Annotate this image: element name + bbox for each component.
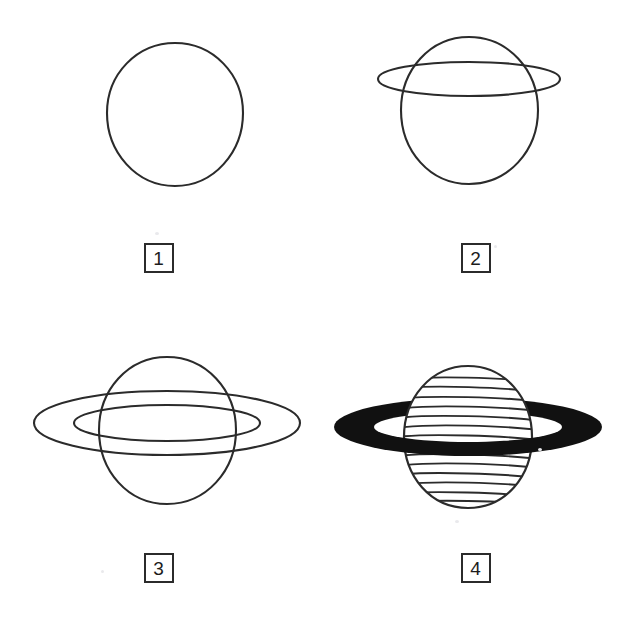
step-label-number: 3	[153, 559, 164, 578]
sphere-outline	[99, 357, 236, 504]
step-label-box-1: 1	[144, 243, 174, 273]
sphere-outline	[107, 43, 243, 186]
step-label-box-2: 2	[461, 243, 491, 273]
drawing-tutorial-sheet: 1 2 3	[0, 0, 634, 620]
step-label-box-3: 3	[144, 553, 174, 583]
step-panel-2: 2	[317, 0, 634, 310]
saturn-step-3-figure	[0, 310, 317, 550]
saturn-step-4-figure	[317, 310, 634, 550]
sphere-outline	[401, 37, 538, 184]
step-panel-3: 3	[0, 310, 317, 620]
step-panel-4: 4	[317, 310, 634, 620]
step-label-number: 4	[470, 559, 481, 578]
step-label-box-4: 4	[461, 553, 491, 583]
ring-ellipse-inner	[74, 405, 260, 441]
step-panel-1: 1	[0, 0, 317, 310]
saturn-step-2-figure	[317, 0, 634, 240]
step-label-number: 2	[470, 249, 481, 268]
saturn-step-1-figure	[0, 0, 317, 240]
step-label-number: 1	[153, 249, 164, 268]
